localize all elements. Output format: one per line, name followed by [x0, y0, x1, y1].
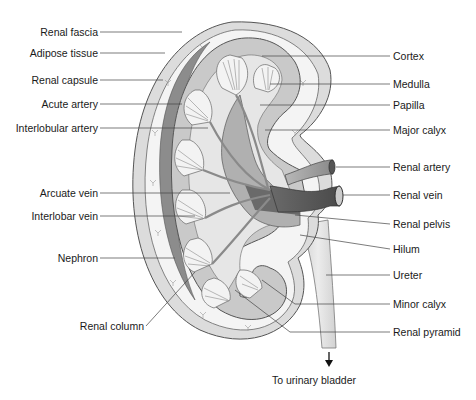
- label-renal-artery: Renal artery: [393, 161, 450, 173]
- label-renal-column: Renal column: [80, 320, 144, 332]
- label-renal-capsule: Renal capsule: [31, 74, 98, 86]
- label-minor-calyx: Minor calyx: [393, 298, 446, 310]
- label-adipose-tissue: Adipose tissue: [30, 47, 98, 59]
- caption-to-urinary-bladder: To urinary bladder: [272, 374, 356, 386]
- label-acute-artery: Acute artery: [41, 98, 98, 110]
- label-interlobar-vein: Interlobar vein: [31, 210, 98, 222]
- label-arcuate-vein: Arcuate vein: [40, 187, 98, 199]
- label-renal-vein: Renal vein: [393, 189, 443, 201]
- label-renal-fascia: Renal fascia: [40, 26, 98, 38]
- label-interlobular-artery: Interlobular artery: [16, 122, 98, 134]
- label-renal-pyramid: Renal pyramid: [393, 326, 461, 338]
- label-ureter: Ureter: [393, 269, 422, 281]
- label-cortex: Cortex: [393, 50, 424, 62]
- label-renal-pelvis: Renal pelvis: [393, 218, 450, 230]
- label-medulla: Medulla: [393, 78, 430, 90]
- label-nephron: Nephron: [58, 252, 98, 264]
- arrow-down-icon: [325, 352, 333, 367]
- label-major-calyx: Major calyx: [393, 124, 446, 136]
- label-hilum: Hilum: [393, 243, 420, 255]
- label-papilla: Papilla: [393, 99, 425, 111]
